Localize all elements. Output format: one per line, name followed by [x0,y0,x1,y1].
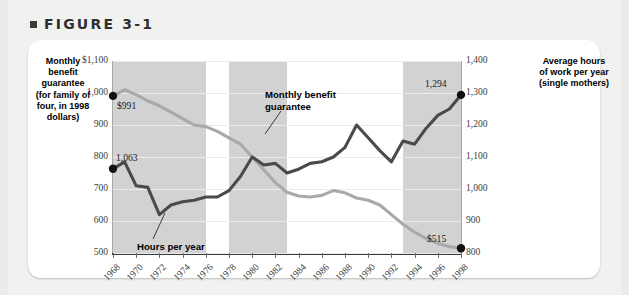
y-tick-label: 900 [466,215,480,225]
y-tick-label: 1,000 [87,87,108,97]
point-value-label: $991 [117,100,136,111]
y-tick-label: 1,400 [466,55,487,65]
square-bullet-icon [30,21,37,28]
x-tick-mark [391,253,392,258]
y-tick-label: 1,200 [466,119,487,129]
point-value-label: 1,063 [116,152,138,163]
x-tick-mark [113,253,114,258]
x-tick-mark [368,253,369,258]
y-tick-label: 700 [94,183,108,193]
left-axis-ticks: $1,1001,000900800700600500 [60,61,108,253]
x-tick-mark [415,253,416,258]
right-axis-ticks: 1,4001,3001,2001,1001,000900800 [466,61,516,253]
y-tick-label: 1,300 [466,87,487,97]
gridline-6 [113,253,461,254]
y-tick-label: 1,000 [466,183,487,193]
y-tick-label: $1,100 [82,55,108,65]
y-tick-label: 1,100 [466,151,487,161]
annotation-benefit: Monthly benefit guarantee [265,89,336,113]
x-tick-mark [299,253,300,258]
figure-title: FIGURE 3-1 [30,16,154,32]
x-tick-mark [229,253,230,258]
x-tick-mark [322,253,323,258]
plot-area: Monthly benefit guaranteeHours per year$… [113,61,461,253]
x-tick-mark [345,253,346,258]
x-tick-mark [252,253,253,258]
x-tick-mark [275,253,276,258]
right-axis-caption: Average hours of work per year (single m… [538,56,610,90]
y-tick-label: 900 [94,119,108,129]
x-tick-mark [136,253,137,258]
chart-annotations: Monthly benefit guaranteeHours per year$… [113,61,461,253]
annotation-hours: Hours per year [137,241,205,253]
x-tick-mark [183,253,184,258]
right-axis-line [461,61,462,254]
figure-title-text: FIGURE 3-1 [44,16,154,32]
page-background: FIGURE 3-1 Monthly benefit guarantee (fo… [0,0,629,295]
y-tick-label: 800 [94,151,108,161]
y-tick-label: 600 [94,215,108,225]
x-tick-mark [159,253,160,258]
x-tick-mark [461,253,462,258]
y-tick-label: 500 [94,247,108,257]
point-value-label: 1,294 [425,78,447,89]
x-tick-mark [438,253,439,258]
point-value-label: $515 [427,233,446,244]
x-tick-mark [206,253,207,258]
y-tick-label: 800 [466,247,480,257]
